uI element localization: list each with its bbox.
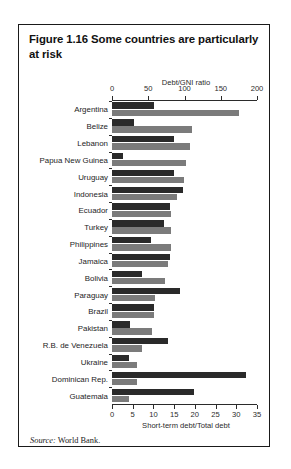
chart-bar-row: Ecuador [112, 202, 257, 219]
bar-debt-gni-ratio [112, 177, 184, 183]
axis-tick [195, 405, 196, 409]
axis-tick [112, 405, 113, 409]
axis-tick-label: 0 [97, 84, 127, 93]
axis-tick-label: 50 [133, 84, 163, 93]
bar-short-term-debt [112, 355, 129, 361]
bar-short-term-debt [112, 102, 154, 108]
source-text: World Bank. [58, 436, 101, 445]
source-note: Source: World Bank. [30, 436, 100, 445]
chart-bar-rows: ArgentinaBelizeLebanonPapua New GuineaUr… [112, 101, 257, 404]
bar-debt-gni-ratio [112, 328, 152, 334]
chart-bar-row: Belize [112, 118, 257, 135]
bar-debt-gni-ratio [112, 261, 168, 267]
bar-debt-gni-ratio [112, 194, 177, 200]
chart-bar-row: Lebanon [112, 135, 257, 152]
chart-bar-row: Uruguay [112, 168, 257, 185]
axis-tick-label: 200 [242, 84, 272, 93]
bar-debt-gni-ratio [112, 126, 192, 132]
category-label: Uruguay [78, 172, 108, 181]
axis-tick [185, 96, 186, 100]
category-label: Paraguay [74, 290, 108, 299]
bottom-axis-line [112, 404, 257, 405]
bar-short-term-debt [112, 288, 180, 294]
category-label: Indonesia [74, 189, 108, 198]
bar-debt-gni-ratio [112, 143, 190, 149]
axis-tick [221, 96, 222, 100]
chart-bar-row: Dominican Rep. [112, 370, 257, 387]
bar-short-term-debt [112, 271, 142, 277]
category-label: R.B. de Venezuela [43, 341, 108, 350]
chart-plot-area: ArgentinaBelizeLebanonPapua New GuineaUr… [112, 100, 257, 405]
chart-bar-row: Brazil [112, 303, 257, 320]
category-label: Papua New Guinea [40, 155, 108, 164]
category-label: Jamaica [79, 256, 108, 265]
bar-debt-gni-ratio [112, 379, 137, 385]
category-label: Ecuador [79, 206, 108, 215]
bar-debt-gni-ratio [112, 396, 129, 402]
bar-short-term-debt [112, 136, 174, 142]
bar-short-term-debt [112, 389, 194, 395]
axis-tick [148, 96, 149, 100]
bar-short-term-debt [112, 237, 151, 243]
category-label: Dominican Rep. [52, 374, 108, 383]
bar-short-term-debt [112, 119, 134, 125]
axis-tick [174, 405, 175, 409]
bar-short-term-debt [112, 338, 168, 344]
axis-tick [257, 405, 258, 409]
axis-tick [133, 405, 134, 409]
bar-short-term-debt [112, 220, 164, 226]
axis-tick [153, 405, 154, 409]
axis-tick [257, 96, 258, 100]
bar-short-term-debt [112, 170, 174, 176]
source-label: Source: [30, 436, 56, 445]
chart-bar-row: Jamaica [112, 253, 257, 270]
bar-debt-gni-ratio [112, 227, 171, 233]
axis-tick [216, 405, 217, 409]
bar-short-term-debt [112, 304, 154, 310]
chart-bar-row: Papua New Guinea [112, 152, 257, 169]
figure-title: Figure 1.16 Some countries are particula… [29, 32, 261, 61]
category-label: Pakistan [78, 324, 108, 333]
bar-short-term-debt [112, 254, 170, 260]
chart-bar-row: Paraguay [112, 286, 257, 303]
axis-tick-label: 150 [206, 84, 236, 93]
bar-short-term-debt [112, 321, 130, 327]
bar-short-term-debt [112, 203, 170, 209]
bar-debt-gni-ratio [112, 295, 155, 301]
chart-bar-row: Ukraine [112, 354, 257, 371]
axis-tick [236, 405, 237, 409]
category-label: Belize [87, 122, 109, 131]
category-label: Brazil [88, 307, 108, 316]
chart-bar-row: Argentina [112, 101, 257, 118]
axis-tick-label: 35 [242, 410, 272, 419]
bar-short-term-debt [112, 153, 123, 159]
bar-debt-gni-ratio [112, 362, 137, 368]
category-label: Turkey [84, 223, 108, 232]
chart-bar-row: Philippines [112, 236, 257, 253]
chart-bar-row: Pakistan [112, 320, 257, 337]
bottom-axis-title: Short-term debt/Total debt [19, 421, 271, 430]
bar-debt-gni-ratio [112, 278, 165, 284]
bar-debt-gni-ratio [112, 160, 186, 166]
chart-bar-row: Turkey [112, 219, 257, 236]
chart-bar-row: R.B. de Venezuela [112, 337, 257, 354]
chart-bar-row: Guatemala [112, 387, 257, 404]
category-label: Ukraine [81, 357, 108, 366]
bottom-axis-title-text: Short-term debt/Total debt [142, 421, 230, 430]
bar-short-term-debt [112, 372, 246, 378]
axis-tick [112, 96, 113, 100]
bar-debt-gni-ratio [112, 211, 171, 217]
bar-debt-gni-ratio [112, 345, 142, 351]
bar-debt-gni-ratio [112, 312, 154, 318]
category-label: Bolivia [85, 273, 108, 282]
axis-tick-label: 100 [170, 84, 200, 93]
chart-bar-row: Indonesia [112, 185, 257, 202]
category-label: Guatemala [69, 391, 108, 400]
category-label: Argentina [74, 105, 108, 114]
bar-debt-gni-ratio [112, 244, 171, 250]
figure-frame: Figure 1.16 Some countries are particula… [18, 24, 270, 447]
bar-short-term-debt [112, 187, 183, 193]
bar-debt-gni-ratio [112, 110, 239, 116]
category-label: Philippines [70, 240, 108, 249]
chart-bar-row: Bolivia [112, 269, 257, 286]
